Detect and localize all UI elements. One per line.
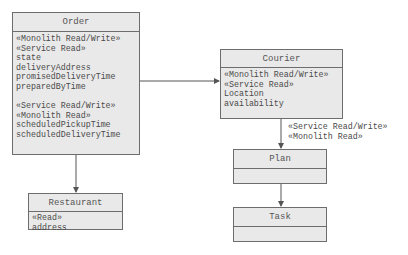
class-task[interactable]: Task xyxy=(233,207,327,242)
attribute: «Monolith Read» xyxy=(16,111,136,121)
courier-plan-label: «Service Read/Write» «Monolith Read» xyxy=(288,122,388,141)
class-courier[interactable]: Courier «Monolith Read/Write» «Service R… xyxy=(220,49,343,119)
edge-label-line: «Monolith Read» xyxy=(288,132,388,142)
attribute: deliveryAddress xyxy=(16,63,136,73)
attribute: promisedDeliveryTime xyxy=(16,72,136,82)
class-order-title: Order xyxy=(13,13,139,32)
attribute: «Read» xyxy=(32,213,119,223)
class-restaurant[interactable]: Restaurant «Read» address xyxy=(28,193,123,230)
attribute: «Service Read» xyxy=(16,44,136,54)
class-plan[interactable]: Plan xyxy=(233,149,327,184)
attribute: «Service Read» xyxy=(224,80,339,90)
class-task-title: Task xyxy=(234,208,326,227)
class-restaurant-attributes: «Read» address xyxy=(29,212,122,234)
class-restaurant-title: Restaurant xyxy=(29,194,122,212)
class-courier-attributes: «Monolith Read/Write» «Service Read» Loc… xyxy=(221,68,342,110)
attribute: «Service Read/Write» xyxy=(16,101,136,111)
attribute: «Monolith Read/Write» xyxy=(16,34,136,44)
attribute: scheduledPickupTime xyxy=(16,120,136,130)
attribute: Location xyxy=(224,89,339,99)
class-order-attributes: «Monolith Read/Write» «Service Read» sta… xyxy=(13,32,139,142)
edge-label-line: «Service Read/Write» xyxy=(288,122,388,132)
class-courier-title: Courier xyxy=(221,50,342,68)
attribute: address xyxy=(32,223,119,233)
class-plan-title: Plan xyxy=(234,150,326,169)
attribute: «Monolith Read/Write» xyxy=(224,70,339,80)
attribute: preparedByTime xyxy=(16,82,136,92)
attribute: availability xyxy=(224,99,339,109)
spacer xyxy=(16,92,136,102)
class-order[interactable]: Order «Monolith Read/Write» «Service Rea… xyxy=(12,12,140,155)
attribute: scheduledDeliveryTime xyxy=(16,130,136,140)
attribute: state xyxy=(16,53,136,63)
